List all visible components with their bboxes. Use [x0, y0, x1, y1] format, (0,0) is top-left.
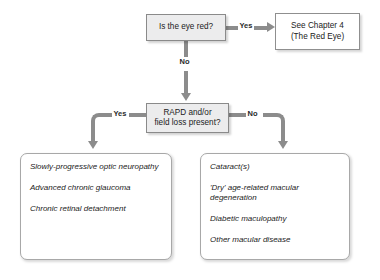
arrowhead-to-rapd [181, 93, 191, 101]
outcome-panel-rapd-yes: Slowly-progressive optic neuropathy Adva… [20, 153, 172, 260]
connector-rapd-yes-segment-a [129, 113, 146, 117]
decision-node-eye-red-label: Is the eye red? [159, 22, 213, 32]
decision-node-rapd-line-1: RAPD and/or [163, 108, 211, 117]
arrowhead-to-chapter [267, 22, 275, 32]
list-item: Diabetic maculopathy [210, 214, 340, 224]
decision-node-rapd-text: RAPD and/or field loss present? [155, 108, 221, 129]
list-item: Advanced chronic glaucoma [30, 183, 162, 193]
edge-label-eye-red-yes: Yes [238, 22, 254, 30]
reference-node-chapter-4-text: See Chapter 4 (The Red Eye) [291, 21, 344, 42]
connector-rapd-yes-vertical [91, 125, 95, 141]
edge-label-rapd-yes: Yes [112, 110, 128, 118]
connector-eye-red-no-segment-a [184, 41, 188, 57]
edge-label-eye-red-no: No [178, 58, 191, 66]
reference-node-line-1: See Chapter 4 [291, 21, 344, 30]
decision-node-rapd-line-2: field loss present? [155, 118, 221, 127]
list-item: Slowly-progressive optic neuropathy [30, 162, 162, 172]
connector-rapd-no-vertical [281, 125, 285, 141]
connector-rapd-no-segment-a [229, 113, 246, 117]
flowchart-canvas: Yes No Yes No Is the eye red? See Chapte… [0, 0, 380, 280]
list-item: Cataract(s) [210, 162, 340, 172]
list-item: 'Dry' age-related macular degeneration [210, 183, 328, 203]
connector-eye-red-yes-segment-a [226, 26, 238, 30]
edge-label-rapd-no: No [246, 110, 259, 118]
outcome-panel-rapd-no: Cataract(s) 'Dry' age-related macular de… [200, 153, 350, 260]
decision-node-eye-red: Is the eye red? [146, 14, 226, 41]
arrowhead-to-right-panel [278, 141, 288, 149]
reference-node-chapter-4: See Chapter 4 (The Red Eye) [275, 13, 360, 50]
arrowhead-to-left-panel [88, 141, 98, 149]
decision-node-rapd: RAPD and/or field loss present? [146, 103, 229, 133]
list-item: Other macular disease [210, 235, 340, 245]
connector-eye-red-no-segment-b [184, 71, 188, 93]
list-item: Chronic retinal detachment [30, 204, 162, 214]
reference-node-line-2: (The Red Eye) [291, 32, 344, 41]
connector-eye-red-yes-segment-b [254, 26, 267, 30]
